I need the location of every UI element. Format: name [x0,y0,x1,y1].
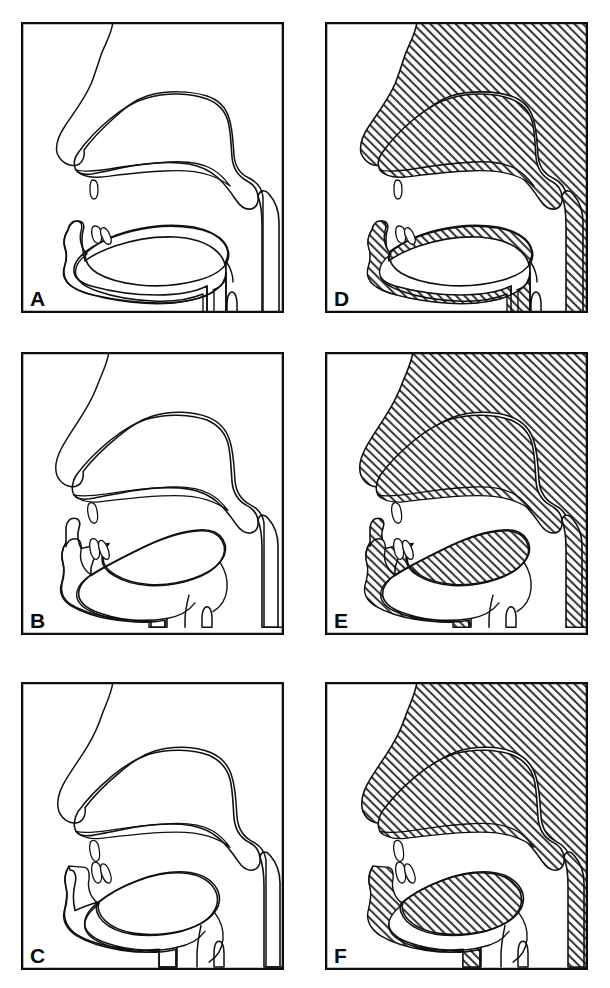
lower-teeth [92,862,102,883]
head-profile-outline [56,22,284,313]
panel-label-a: A [30,288,45,309]
panel-label-f: F [334,945,347,966]
epiglottis [530,261,537,282]
lower-teeth [92,226,102,243]
upper-teeth [90,180,98,199]
panel-f: F [325,682,588,970]
larynx-and-trachea [165,595,212,627]
mandible-outline [60,539,165,627]
hard-palate-and-velum [74,94,258,209]
pharyngeal-wall [260,852,280,967]
mandible-and-tongue-mass [61,518,225,627]
hyoid-contour [481,931,509,947]
panel-b: B [21,352,284,635]
vocal-tract-drawing [325,352,588,635]
upper-teeth [90,840,100,861]
tongue-tip [405,864,416,883]
panel-d: D [325,22,588,313]
vocal-tract-drawing [21,682,284,970]
lower-teeth [396,226,406,243]
pharyngeal-wall [258,515,278,627]
epiglottis [213,562,227,612]
larynx-and-trachea [469,595,516,627]
hyoid-contour [177,931,205,947]
panel-frame [22,23,283,312]
panel-e: E [325,352,588,635]
tongue-tip [101,864,112,883]
tongue-dorsum [96,873,217,936]
vocal-tract-drawing [325,682,588,970]
vocal-tract-drawing [325,22,588,313]
pharyngeal-wall [562,191,583,313]
pharyngeal-wall [562,515,582,627]
tongue-dorsum [91,531,224,586]
pharyngeal-wall [258,191,279,313]
panel-a: A [21,22,284,313]
epiglottis [226,261,233,282]
panel-c: C [21,682,284,970]
panel-label-d: D [334,288,349,309]
vocal-tract-drawing [21,22,284,313]
panel-label-e: E [334,610,348,631]
upper-teeth [88,503,98,524]
hyoid-contour [471,603,499,619]
alveolar-ridge-band [76,162,230,186]
hyoid-contour [167,603,195,619]
panel-label-b: B [30,610,45,631]
upper-teeth [394,180,402,199]
panel-label-c: C [30,945,45,966]
upper-teeth [394,840,404,861]
panel-frame [22,683,283,969]
mandible-outline [64,866,176,967]
hard-palate-and-velum [74,750,260,870]
alveolar-ridge-band [76,823,230,847]
pharyngeal-wall [564,852,584,967]
lower-teeth [396,862,406,883]
figure-panel-grid: ADBECF [0,0,610,988]
epiglottis [517,562,531,612]
alveolar-ridge-band [74,487,228,511]
upper-teeth [392,503,402,524]
vocal-tract-drawing [21,352,284,635]
mandible-outline [63,221,214,313]
head-profile-outline [56,352,284,627]
hard-palate-and-velum [72,415,258,533]
lower-teeth [90,539,100,560]
epiglottis [209,912,223,962]
